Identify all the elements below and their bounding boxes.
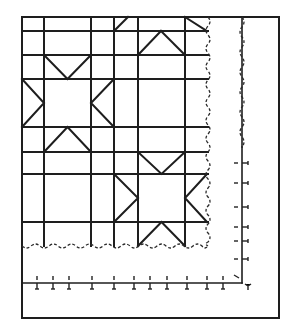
partial-star-line: [114, 17, 128, 31]
right-star-left-point: [114, 174, 138, 222]
ruler-corner-mark: [234, 275, 239, 278]
left-star-left-point: [22, 79, 44, 127]
right-star-top-point: [138, 152, 185, 174]
left-star-bottom-point: [44, 127, 91, 152]
left-star-top-point: [44, 55, 91, 79]
right-star-right-point: [185, 174, 207, 222]
right-star-bottom-point: [138, 222, 185, 246]
partial-star-line: [161, 31, 185, 55]
quilt-corner-diagram: [0, 0, 290, 335]
outer-frame: [22, 17, 279, 318]
partial-star-block: [114, 17, 207, 55]
partial-star-line: [138, 31, 161, 55]
frame-border: [22, 17, 279, 318]
diagram-canvas: [0, 0, 290, 335]
partial-star-line: [185, 17, 207, 31]
left-star-right-point: [91, 79, 114, 127]
measurement-ruler: [22, 147, 251, 290]
binding-wave-vertical: [206, 17, 210, 246]
outer-scalloped-line: [240, 17, 244, 147]
ruler-corner-y-mark: [245, 284, 251, 290]
